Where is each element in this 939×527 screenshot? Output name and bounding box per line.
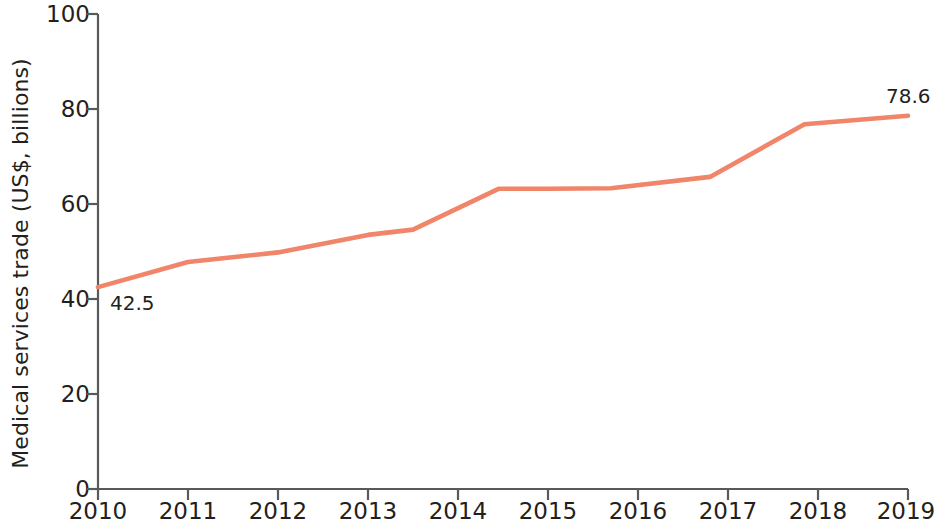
data-series-line	[98, 116, 908, 287]
y-axis-ticks	[87, 14, 98, 489]
x-axis-ticks	[98, 489, 908, 500]
